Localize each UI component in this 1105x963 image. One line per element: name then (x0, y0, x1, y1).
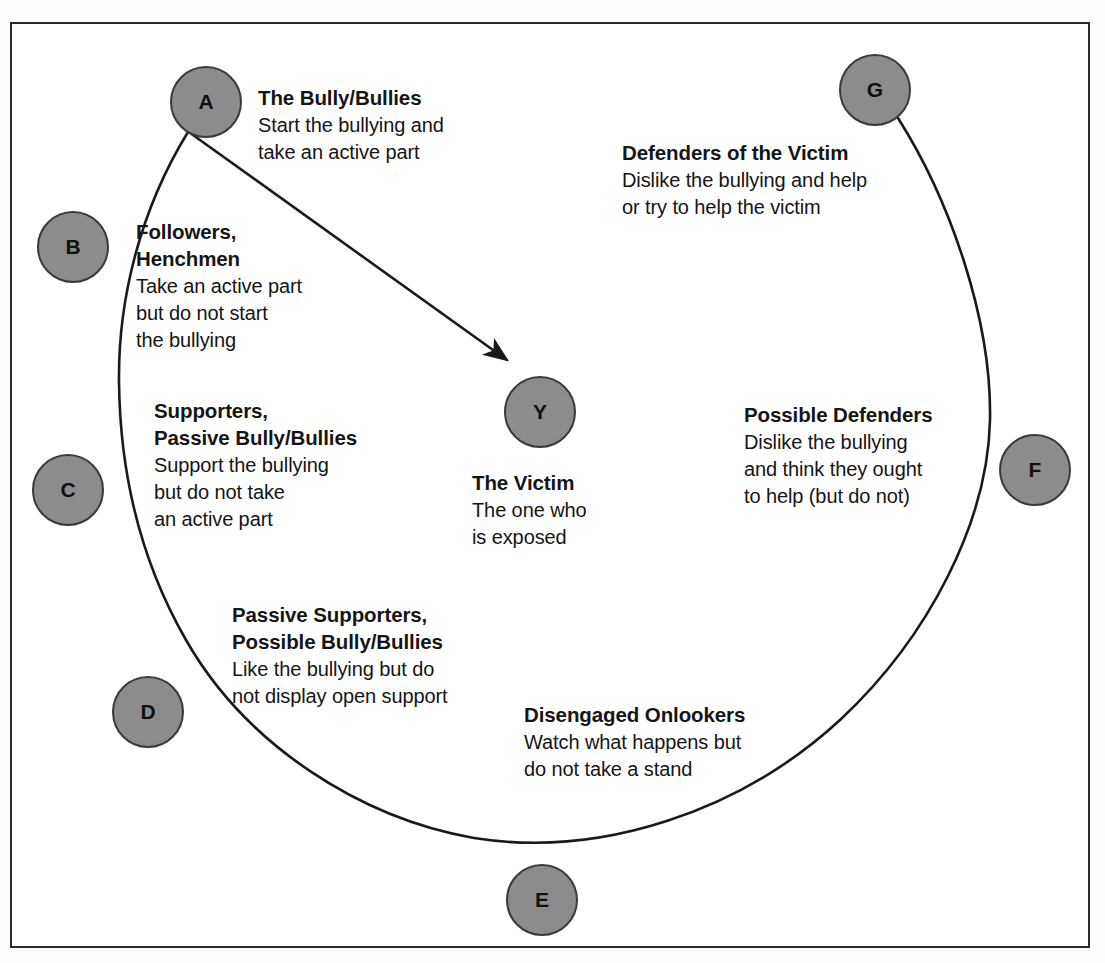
label-d-desc-line-2: not display open support (232, 683, 552, 710)
label-g-defenders: Defenders of the Victim Dislike the bull… (622, 140, 1022, 221)
label-b-desc-line-3: the bullying (136, 327, 396, 354)
label-g-title: Defenders of the Victim (622, 140, 1022, 166)
label-g-desc-line-1: Dislike the bullying and help (622, 167, 1022, 194)
node-f[interactable]: F (999, 434, 1071, 506)
node-a[interactable]: A (170, 66, 242, 138)
node-f-letter: F (1029, 458, 1042, 482)
node-b-letter: B (65, 235, 80, 259)
label-a-desc-line-1: Start the bullying and (258, 112, 558, 139)
label-e-desc-line-1: Watch what happens but (524, 729, 854, 756)
node-a-letter: A (198, 90, 213, 114)
label-f-desc-line-2: and think they ought (744, 456, 1004, 483)
label-a-desc-line-2: take an active part (258, 139, 558, 166)
label-f-desc-line-3: to help (but do not) (744, 483, 1004, 510)
label-e-desc-line-2: do not take a stand (524, 756, 854, 783)
label-d-desc-line-1: Like the bullying but do (232, 656, 552, 683)
node-g[interactable]: G (839, 54, 911, 126)
label-y-victim: The Victim The one who is exposed (472, 470, 692, 551)
node-e[interactable]: E (506, 864, 578, 936)
label-y-title: The Victim (472, 470, 692, 496)
node-c-letter: C (60, 478, 75, 502)
node-b[interactable]: B (37, 211, 109, 283)
label-c-title-line-1: Supporters, (154, 398, 434, 424)
label-e-disengaged: Disengaged Onlookers Watch what happens … (524, 702, 854, 783)
label-g-desc-line-2: or try to help the victim (622, 194, 1022, 221)
label-b-title-line-2: Henchmen (136, 246, 396, 272)
label-c-desc-line-1: Support the bullying (154, 452, 434, 479)
label-f-title: Possible Defenders (744, 402, 1004, 428)
label-d-passive-supporters: Passive Supporters, Possible Bully/Bulli… (232, 602, 552, 710)
label-y-desc-line-1: The one who (472, 497, 692, 524)
label-a-title: The Bully/Bullies (258, 85, 558, 111)
node-d[interactable]: D (112, 676, 184, 748)
label-b-title-line-1: Followers, (136, 219, 396, 245)
label-f-possible-defenders: Possible Defenders Dislike the bullying … (744, 402, 1004, 510)
node-c[interactable]: C (32, 454, 104, 526)
label-b-followers: Followers, Henchmen Take an active part … (136, 219, 396, 354)
node-g-letter: G (867, 78, 883, 102)
label-d-title-line-2: Possible Bully/Bullies (232, 629, 552, 655)
label-f-desc-line-1: Dislike the bullying (744, 429, 1004, 456)
label-d-title-line-1: Passive Supporters, (232, 602, 552, 628)
node-y-letter: Y (533, 400, 547, 424)
label-c-title-line-2: Passive Bully/Bullies (154, 425, 434, 451)
label-a-bully: The Bully/Bullies Start the bullying and… (258, 85, 558, 166)
node-y-victim[interactable]: Y (504, 376, 576, 448)
label-b-desc-line-1: Take an active part (136, 273, 396, 300)
label-b-desc-line-2: but do not start (136, 300, 396, 327)
label-c-supporters: Supporters, Passive Bully/Bullies Suppor… (154, 398, 434, 533)
node-e-letter: E (535, 888, 549, 912)
label-e-title: Disengaged Onlookers (524, 702, 854, 728)
label-c-desc-line-3: an active part (154, 506, 434, 533)
node-d-letter: D (140, 700, 155, 724)
label-c-desc-line-2: but do not take (154, 479, 434, 506)
label-y-desc-line-2: is exposed (472, 524, 692, 551)
